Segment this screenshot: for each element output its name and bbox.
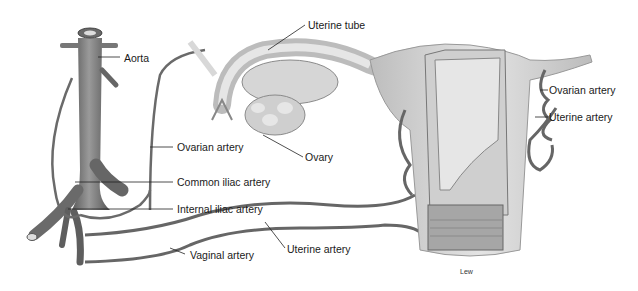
illustrator-credit: Lew xyxy=(460,268,473,275)
label-uterine-tube: Uterine tube xyxy=(308,19,365,31)
label-vaginal-artery: Vaginal artery xyxy=(190,249,254,261)
label-aorta: Aorta xyxy=(124,52,149,64)
label-uterine-artery-bottom: Uterine artery xyxy=(287,243,351,255)
uterus-drawing xyxy=(370,44,592,256)
aorta-drawing xyxy=(27,28,122,262)
label-ovary: Ovary xyxy=(305,151,333,163)
anatomy-figure: Aorta Uterine tube Ovary Ovarian artery … xyxy=(0,0,638,291)
label-internal-iliac-artery: Internal iliac artery xyxy=(177,203,263,215)
uterine-tube-drawing xyxy=(190,42,410,135)
label-ovarian-artery-left: Ovarian artery xyxy=(177,141,244,153)
label-ovarian-artery-right: Ovarian artery xyxy=(549,84,616,96)
label-common-iliac-artery: Common iliac artery xyxy=(177,176,270,188)
label-uterine-artery-right: Uterine artery xyxy=(549,111,613,123)
